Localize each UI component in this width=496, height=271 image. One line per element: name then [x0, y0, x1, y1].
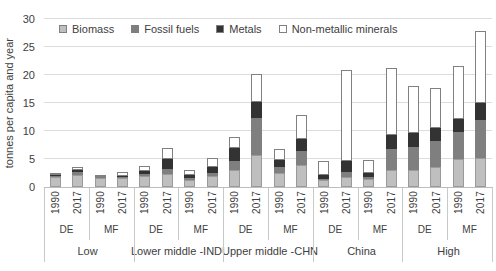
year-label: 2017 [296, 191, 307, 214]
bar-upper-middle-chn-mf-2017 [296, 115, 307, 187]
group-separator-line [492, 188, 493, 262]
year-label-cell: 2017 [66, 188, 88, 219]
year-label: 2017 [341, 191, 352, 214]
group-separator-line [134, 188, 135, 262]
bar-china-mf-2017 [386, 68, 397, 187]
bars-layer [44, 19, 492, 187]
bar-segment-metals [229, 148, 240, 160]
bar-slot [268, 19, 290, 187]
bar-segment-biomass [408, 170, 419, 187]
year-label-cell: 2017 [111, 188, 133, 219]
bar-segment-metals [162, 159, 173, 169]
year-label-cell: 1990 [89, 188, 111, 219]
y-tick-label-10: 10 [13, 125, 35, 138]
year-label: 2017 [431, 191, 442, 214]
bar-high-de-1990 [408, 86, 419, 187]
bar-upper-middle-chn-de-2017 [251, 74, 262, 187]
bar-china-de-1990 [318, 161, 329, 187]
bar-segment-biomass [386, 170, 397, 187]
bar-segment-non_metallic [386, 68, 397, 136]
legend-label-non-metallic-minerals: Non-metallic minerals [292, 23, 398, 35]
bar-segment-non_metallic [453, 66, 464, 119]
bar-slot [313, 19, 335, 187]
bar-segment-metals [475, 103, 486, 120]
y-tick-label-0: 0 [13, 181, 35, 194]
year-label-cell: 2017 [290, 188, 312, 219]
subgroup-label: MF [358, 219, 403, 240]
year-label-cell: 2017 [470, 188, 492, 219]
year-label: 1990 [139, 191, 150, 214]
bar-lower-middle-ind-mf-1990 [184, 170, 195, 187]
bar-segment-metals [453, 119, 464, 132]
bar-segment-metals [251, 102, 262, 118]
year-label-cell: 1990 [223, 188, 245, 219]
y-tick-label-20: 20 [13, 69, 35, 82]
bar-low-de-1990 [50, 173, 61, 187]
bar-slot [223, 19, 245, 187]
bar-segment-non_metallic [430, 88, 441, 128]
bar-segment-metals [408, 133, 419, 146]
bar-segment-non_metallic [296, 115, 307, 139]
bar-segment-non_metallic [162, 148, 173, 159]
bar-segment-fossil_fuels [386, 149, 397, 170]
bar-segment-fossil_fuels [296, 151, 307, 164]
bar-segment-non_metallic [207, 158, 218, 167]
stacked-bar-chart-figure: tonnes per capita and year 051015202530 … [0, 0, 496, 271]
subgroup-separator-line [358, 188, 359, 240]
bar-segment-biomass [184, 180, 195, 187]
legend: Biomass Fossil fuels Metals Non-metallic… [59, 23, 397, 35]
year-label-cell: 2017 [246, 188, 268, 219]
bar-segment-fossil_fuels [453, 132, 464, 159]
year-label: 2017 [475, 191, 486, 214]
bar-slot [134, 19, 156, 187]
year-label: 1990 [319, 191, 330, 214]
year-label: 2017 [207, 191, 218, 214]
bar-segment-metals [274, 160, 285, 167]
bar-lower-middle-ind-de-2017 [162, 148, 173, 187]
bar-segment-biomass [363, 179, 374, 187]
group-label: China [318, 240, 405, 262]
year-label-cell: 2017 [156, 188, 178, 219]
bar-segment-fossil_fuels [229, 161, 240, 170]
bar-segment-biomass [475, 158, 486, 187]
subgroup-label: MF [178, 219, 223, 240]
bar-segment-fossil_fuels [475, 120, 486, 158]
group-label: Low [44, 240, 131, 262]
bar-segment-non_metallic [475, 31, 486, 103]
bar-lower-middle-ind-mf-2017 [207, 158, 218, 187]
bar-china-mf-1990 [363, 160, 374, 187]
subgroup-label: MF [447, 219, 492, 240]
bar-segment-biomass [117, 178, 128, 187]
bar-slot [89, 19, 111, 187]
year-label: 1990 [363, 191, 374, 214]
subgroup-separator-line [178, 188, 179, 240]
year-label: 2017 [162, 191, 173, 214]
bar-group-2 [223, 19, 313, 187]
bar-china-de-2017 [341, 70, 352, 187]
bar-low-mf-2017 [117, 172, 128, 187]
group-separator-line [223, 188, 224, 262]
bar-lower-middle-ind-de-1990 [139, 166, 150, 187]
year-label-cell: 2017 [425, 188, 447, 219]
year-label: 1990 [50, 191, 61, 214]
bar-segment-non_metallic [274, 149, 285, 160]
subgroup-separator-line [447, 188, 448, 240]
bar-segment-metals [341, 161, 352, 172]
subgroup-separator-line [268, 188, 269, 240]
bar-segment-biomass [162, 174, 173, 187]
legend-item-fossil-fuels: Fossil fuels [131, 23, 199, 35]
year-label: 1990 [408, 191, 419, 214]
year-label: 1990 [229, 191, 240, 214]
bar-high-mf-2017 [475, 31, 486, 187]
y-axis-tick-labels: 051015202530 [16, 19, 38, 187]
bar-slot [290, 19, 312, 187]
year-label-cell: 1990 [358, 188, 380, 219]
bar-segment-biomass [318, 180, 329, 187]
subgroup-label: DE [223, 219, 268, 240]
bar-group-1 [134, 19, 224, 187]
y-tick-label-25: 25 [13, 41, 35, 54]
bar-group-3 [313, 19, 403, 187]
y-tick-label-15: 15 [13, 97, 35, 110]
group-label: Lower middle -IND [131, 240, 222, 262]
year-label: 2017 [251, 191, 262, 214]
